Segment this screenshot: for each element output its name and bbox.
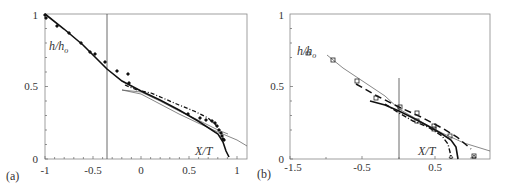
thick-curve-a	[45, 14, 229, 157]
x-axis-label-a: X/T	[194, 144, 214, 158]
y-tick-label-a: 0	[33, 153, 39, 165]
x-tick-label-a: 0.5	[182, 164, 196, 176]
x-tick-label-a: 1	[234, 164, 240, 176]
x-tick-label-b: 0.5	[428, 161, 442, 173]
y-ticks-a	[45, 29, 48, 160]
y-tick-label-a: 0.5	[24, 80, 38, 92]
panel-b: 1 0.5 0 -1.5 -0.5 0.5 (b) h/ho X/T	[257, 9, 490, 181]
x-axis-label-b: X/T	[417, 144, 437, 158]
panel-label-a: (a)	[6, 169, 19, 183]
thin-curve-a-1	[122, 90, 247, 146]
y-tick-label-b: 0.5	[270, 80, 284, 92]
x-tick-label-a: -1	[40, 164, 49, 176]
x-tick-label-b: -1.5	[284, 161, 302, 173]
y-tick-label-a: 1	[33, 9, 39, 21]
y-ticks-b	[290, 29, 293, 160]
plot-frame-b	[290, 14, 490, 159]
x-tick-label-a: 0	[138, 164, 144, 176]
x-tick-label-a: -0.5	[84, 164, 102, 176]
x-tick-label-b: -0.5	[353, 161, 371, 173]
y-tick-label-b: 1	[279, 9, 285, 21]
panel-label-b: (b)	[257, 167, 271, 181]
data-markers-a	[43, 13, 226, 142]
data-markers-b	[306, 52, 476, 158]
figure: 1 0.5 0 -1 -0.5 0 0.5 1 (a) h/ho X/T	[0, 0, 505, 191]
plot-frame-a	[45, 14, 247, 159]
y-axis-label-a: h/ho	[49, 39, 68, 55]
thin-curve-b	[327, 55, 490, 151]
x-ticks-b	[290, 156, 471, 159]
panel-a: 1 0.5 0 -1 -0.5 0 0.5 1 (a) h/ho X/T	[6, 9, 247, 183]
dashed-curve-b	[356, 84, 471, 149]
